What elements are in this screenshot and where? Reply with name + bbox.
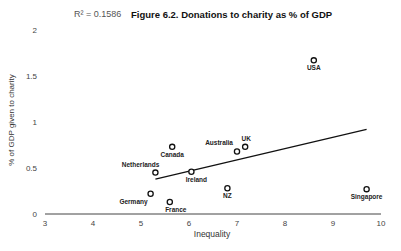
scatter-chart: R² = 0.1586 Figure 6.2. Donations to cha… (0, 0, 401, 251)
x-tick-label: 10 (377, 219, 386, 228)
data-label-australia: Australia (205, 139, 233, 146)
data-point-france (167, 199, 172, 204)
y-tick-label: 1 (33, 118, 38, 127)
data-label-netherlands: Netherlands (122, 161, 160, 168)
data-point-uk (243, 144, 248, 149)
data-point-nz (225, 186, 230, 191)
data-point-singapore (364, 187, 369, 192)
data-label-ireland: Ireland (186, 176, 207, 183)
data-point-germany (148, 191, 153, 196)
x-tick-label: 3 (43, 219, 48, 228)
data-label-uk: UK (241, 135, 251, 142)
y-tick-label: 0.5 (26, 164, 38, 173)
plot-area: 34567891000.511.52USACanadaUKAustraliaNe… (0, 0, 401, 251)
trendline (155, 129, 366, 179)
data-point-ireland (189, 169, 194, 174)
data-point-netherlands (153, 170, 158, 175)
data-point-australia (234, 149, 239, 154)
data-point-usa (311, 58, 316, 63)
data-label-singapore: Singapore (351, 193, 383, 201)
x-tick-label: 6 (187, 219, 192, 228)
data-point-canada (170, 144, 175, 149)
x-tick-label: 7 (235, 219, 240, 228)
data-label-germany: Germany (119, 198, 148, 206)
data-label-usa: USA (307, 64, 321, 71)
y-tick-label: 1.5 (26, 72, 38, 81)
x-tick-label: 4 (91, 219, 96, 228)
data-label-nz: NZ (223, 192, 232, 199)
x-tick-label: 9 (331, 219, 336, 228)
x-tick-label: 5 (139, 219, 144, 228)
data-label-france: France (165, 206, 187, 213)
x-tick-label: 8 (283, 219, 288, 228)
y-tick-label: 2 (33, 26, 38, 35)
data-label-canada: Canada (160, 151, 184, 158)
y-tick-label: 0 (33, 210, 38, 219)
